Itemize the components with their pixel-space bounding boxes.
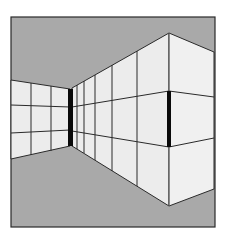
convex-corner-bar: [167, 91, 171, 147]
left-wall: [11, 80, 70, 159]
perspective-illusion-figure: [0, 0, 228, 233]
right-wall-far: [169, 33, 214, 206]
concave-corner-bar: [68, 89, 73, 146]
